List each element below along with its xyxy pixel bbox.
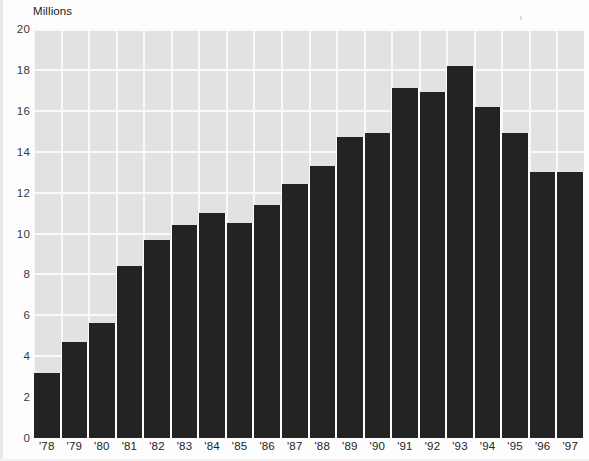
gridline-vertical <box>584 29 586 438</box>
x-axis-tick-label: '81 <box>122 440 138 452</box>
bar <box>88 323 116 438</box>
y-axis-unit-label: Millions <box>33 5 72 17</box>
y-axis-tick-label: 18 <box>4 64 30 76</box>
bar <box>501 133 529 438</box>
bar <box>336 137 364 438</box>
x-axis-tick-label: '96 <box>535 440 551 452</box>
bar <box>556 172 584 438</box>
x-axis-tick-label: '88 <box>314 440 330 452</box>
y-axis-tick-label: 14 <box>4 146 30 158</box>
bar <box>61 342 88 438</box>
x-axis-tick-labels: '78'79'80'81'82'83'84'85'86'87'88'89'90'… <box>33 440 584 460</box>
y-axis-tick-labels: 20181614121086420 <box>0 29 30 438</box>
bar <box>116 266 143 438</box>
x-axis-tick-label: '93 <box>452 440 468 452</box>
x-axis-tick-label: '85 <box>232 440 248 452</box>
x-axis-tick-label: '82 <box>149 440 165 452</box>
bar <box>391 88 419 438</box>
bar-series-layer <box>33 29 584 438</box>
x-axis-tick-label: '92 <box>425 440 441 452</box>
y-axis-tick-label: 6 <box>4 309 30 321</box>
x-axis-tick-label: '87 <box>287 440 303 452</box>
bar <box>198 213 226 438</box>
bar <box>143 240 171 438</box>
bar <box>446 66 474 438</box>
x-axis-tick-label: '80 <box>94 440 110 452</box>
y-axis-tick-label: 2 <box>4 391 30 403</box>
bar-chart-figure: Millions 20181614121086420 '78'79'80'81'… <box>0 0 589 461</box>
y-axis-tick-label: 20 <box>4 23 30 35</box>
bar <box>529 172 556 438</box>
x-axis-tick-label: '95 <box>507 440 523 452</box>
x-axis-tick-label: '90 <box>370 440 386 452</box>
y-axis-tick-label: 0 <box>4 432 30 444</box>
y-axis-tick-label: 16 <box>4 105 30 117</box>
x-axis-tick-label: '83 <box>177 440 193 452</box>
bar <box>226 223 253 438</box>
y-axis-tick-label: 12 <box>4 187 30 199</box>
y-axis-tick-label: 10 <box>4 228 30 240</box>
bar <box>171 225 198 438</box>
x-axis-tick-label: '89 <box>342 440 358 452</box>
y-axis-tick-label: 8 <box>4 268 30 280</box>
x-axis-tick-label: '78 <box>39 440 55 452</box>
bar <box>474 107 501 438</box>
x-axis-tick-label: '86 <box>259 440 275 452</box>
scan-speck <box>520 16 522 20</box>
x-axis-tick-label: '79 <box>67 440 83 452</box>
bar <box>364 133 391 438</box>
x-axis-tick-label: '97 <box>562 440 578 452</box>
y-axis-tick-label: 4 <box>4 350 30 362</box>
bar <box>253 205 281 438</box>
x-axis-tick-label: '94 <box>480 440 496 452</box>
x-axis-tick-label: '84 <box>204 440 220 452</box>
bar <box>33 373 61 438</box>
x-axis-tick-label: '91 <box>397 440 413 452</box>
bar <box>281 184 309 438</box>
bar <box>419 92 446 438</box>
bar <box>309 166 336 438</box>
